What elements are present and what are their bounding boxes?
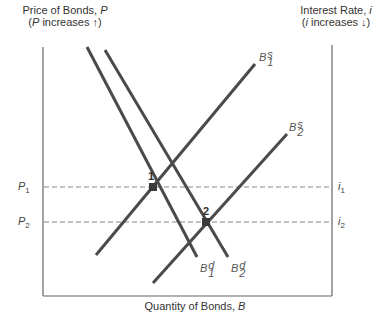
supply-curve-2-label: Bs2 <box>289 120 303 136</box>
curve-var: B <box>259 51 266 63</box>
equilibrium-label-1: 1 <box>148 170 154 182</box>
curve-var: B <box>231 262 238 274</box>
demand-curve-1-label: Bd1 <box>200 261 214 277</box>
demand-curve-2-label: Bd2 <box>231 261 245 277</box>
curve-sub: 2 <box>239 269 245 277</box>
price-sub: 1 <box>25 186 29 195</box>
supply-curve-1 <box>96 64 255 255</box>
x-axis-var: B <box>238 300 245 312</box>
curve-sub: 1 <box>208 269 214 277</box>
curve-sub: 2 <box>297 128 303 136</box>
price-sub: 2 <box>25 221 29 230</box>
rate-sub: 1 <box>340 186 344 195</box>
equilibrium-label-2: 2 <box>203 205 209 217</box>
bond-market-diagram <box>0 0 383 319</box>
curve-sub: 1 <box>267 58 273 66</box>
rate-level-1: i1 <box>338 180 345 192</box>
price-level-1: P1 <box>18 180 30 192</box>
rate-sub: 2 <box>340 221 344 230</box>
price-level-2: P2 <box>18 215 30 227</box>
supply-curve-1-label: Bs1 <box>259 50 273 66</box>
curve-var: B <box>200 262 207 274</box>
x-axis-title-text: Quantity of Bonds, <box>145 300 239 312</box>
equilibrium-point-1 <box>149 183 157 191</box>
equilibrium-point-2 <box>202 218 210 226</box>
curve-var: B <box>289 121 296 133</box>
x-axis-title: Quantity of Bonds, B <box>120 300 270 312</box>
rate-level-2: i2 <box>338 215 345 227</box>
